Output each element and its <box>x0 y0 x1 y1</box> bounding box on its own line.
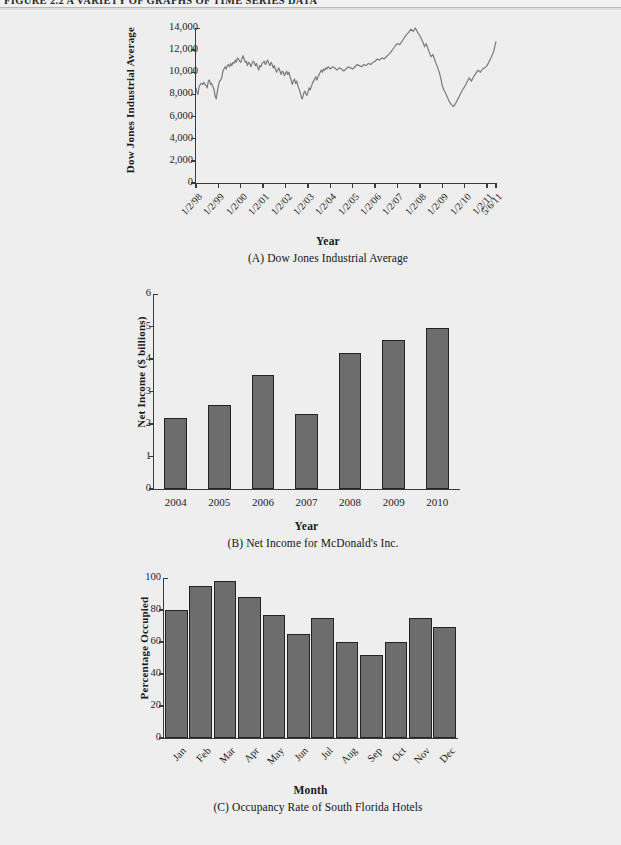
chart-a-line-svg <box>196 28 496 183</box>
y-tick-label: 0 <box>127 482 151 493</box>
bar <box>295 414 318 489</box>
y-tick-label: 10,000 <box>169 65 193 76</box>
y-tick-label: 6,000 <box>169 110 193 121</box>
chart-b-x-axis <box>153 489 460 490</box>
bar <box>409 618 432 738</box>
figure-page: FIGURE 2.2 A VARIETY OF GRAPHS OF TIME S… <box>0 0 621 845</box>
x-tick-label: 2009 <box>372 496 416 508</box>
bar <box>433 627 456 738</box>
bar <box>164 418 187 490</box>
bar <box>311 618 334 738</box>
chart-b-caption: (B) Net Income for McDonald's Inc. <box>118 537 508 549</box>
y-tick-label: 20 <box>137 699 161 710</box>
bar <box>360 655 383 738</box>
bar <box>165 610 188 738</box>
chart-c-x-axis-label: Month <box>163 784 458 796</box>
chart-c-occupancy: Percentage Occupied 020406080100 JanFebM… <box>118 572 518 822</box>
chart-a-y-axis <box>195 28 196 184</box>
y-tick-label: 8,000 <box>169 87 193 98</box>
bar <box>336 642 359 738</box>
chart-a-y-axis-top-cap <box>195 28 200 29</box>
y-tick-label: 0 <box>169 176 193 187</box>
chart-c-caption: (C) Occupancy Rate of South Florida Hote… <box>118 801 518 813</box>
bar <box>238 597 261 738</box>
y-tick-label: 12,000 <box>169 43 193 54</box>
x-tick-label: 2004 <box>154 496 198 508</box>
chart-b-net-income: Net Income ($ billions) 0123456 20042005… <box>118 288 518 533</box>
y-tick-label: 40 <box>137 667 161 678</box>
bar <box>385 642 408 738</box>
y-tick-label: 2,000 <box>169 154 193 165</box>
bar <box>189 586 212 738</box>
bar <box>252 375 275 489</box>
chart-b-y-axis-top-cap <box>153 294 158 295</box>
y-tick-label: 6 <box>127 287 151 298</box>
y-tick-label: 4 <box>127 352 151 363</box>
chart-c-plot-area <box>164 578 457 738</box>
chart-a-y-axis-label: Dow Jones Industrial Average <box>124 20 136 180</box>
y-tick-label: 60 <box>137 635 161 646</box>
chart-b-plot-area <box>154 294 459 489</box>
chart-a-plot-area <box>196 28 496 183</box>
bar <box>382 340 405 490</box>
y-tick-label: 1 <box>127 450 151 461</box>
header-rule <box>0 7 621 10</box>
chart-a-x-axis-label: Year <box>158 235 498 247</box>
bar <box>339 353 362 490</box>
x-tick-label: 2008 <box>328 496 372 508</box>
chart-b-y-axis <box>153 294 154 490</box>
chart-c-y-axis <box>163 578 164 739</box>
y-tick-label: 4,000 <box>169 132 193 143</box>
bar <box>214 581 237 738</box>
chart-b-y-axis-label: Net Income ($ billions) <box>135 292 147 452</box>
y-tick-label: 5 <box>127 320 151 331</box>
y-tick-label: 14,000 <box>169 21 193 32</box>
chart-a-series-line <box>196 28 496 107</box>
y-tick-label: 80 <box>137 603 161 614</box>
chart-c-y-axis-top-cap <box>163 578 168 579</box>
bar <box>426 328 449 489</box>
x-tick-label: 2007 <box>285 496 329 508</box>
x-tick-label: 2010 <box>415 496 459 508</box>
chart-c-x-axis <box>163 738 458 739</box>
bar <box>208 405 231 490</box>
y-tick-label: 3 <box>127 385 151 396</box>
x-tick-label: 2005 <box>198 496 242 508</box>
bar <box>263 615 286 738</box>
chart-a-caption: (A) Dow Jones Industrial Average <box>138 252 518 264</box>
bar <box>287 634 310 738</box>
y-tick-label: 100 <box>137 571 161 582</box>
chart-a-x-axis <box>195 183 497 184</box>
chart-a-dow-jones: Dow Jones Industrial Average 02,0004,000… <box>118 22 518 267</box>
x-tick-label: 2006 <box>241 496 285 508</box>
y-tick-label: 0 <box>137 731 161 742</box>
chart-b-x-axis-label: Year <box>153 520 460 532</box>
y-tick-label: 2 <box>127 417 151 428</box>
